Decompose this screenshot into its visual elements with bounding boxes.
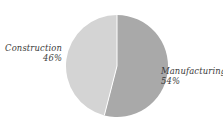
clipped-text: . . . . . . [0, 0, 38, 1]
clipped-text-artifact: . . . . . . [0, 0, 223, 5]
slice-label-construction: Construction 46% [5, 44, 62, 63]
pie-graphic [65, 14, 169, 118]
pie-svg [65, 14, 169, 118]
slice-label-manufacturing-percent: 54% [161, 77, 223, 87]
slice-label-manufacturing: Manufacturing 54% [161, 67, 223, 86]
slice-label-construction-percent: 46% [5, 54, 62, 64]
pie-chart-figure: . . . . . . Construction 46% Manufacturi… [0, 0, 223, 123]
